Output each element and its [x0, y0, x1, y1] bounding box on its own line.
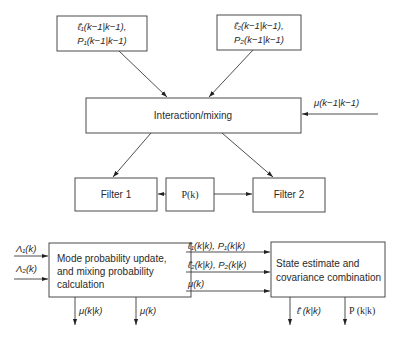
mu-k-in-label: μ(k) — [187, 278, 204, 289]
lambda2-label: Λ₂(k) — [15, 263, 37, 274]
input-box-1-line1: ℓ̂₁(k−1|k−1), — [77, 21, 127, 32]
mode-update-line3: calculation — [57, 279, 104, 290]
arrow-input2-to-interaction — [209, 50, 253, 97]
input-box-2-line2: P₂(k−1|k−1) — [234, 34, 284, 45]
pk-label: P(k) — [181, 189, 198, 201]
mu-prev-label: μ(k−1|k−1) — [313, 97, 359, 108]
interaction-box: Interaction/mixing — [86, 98, 301, 133]
state-combo-line1: State estimate and — [276, 258, 359, 269]
pk-box: P(k) — [166, 178, 214, 211]
mode-update-line1: Mode probability update, — [57, 253, 167, 264]
imm-diagram: ℓ̂₁(k−1|k−1), P₁(k−1|k−1) ℓ̂₂(k−1|k−1), … — [0, 0, 404, 343]
input-box-1-line2: P₁(k−1|k−1) — [77, 35, 126, 46]
arrow-interaction-to-filter1 — [113, 133, 151, 177]
p-out-label: P (k|k) — [349, 305, 375, 317]
input-box-1: ℓ̂₁(k−1|k−1), P₁(k−1|k−1) — [57, 16, 147, 51]
state2-label: ℓ̂₂(k|k), P₂(k|k) — [187, 259, 247, 270]
arrow-interaction-to-filter2 — [222, 133, 273, 177]
filter2-label: Filter 2 — [274, 189, 305, 200]
state1-label: ℓ̂₁(k|k), P₁(k|k) — [187, 240, 245, 251]
ell-out-label: ℓ̂ (k|k) — [296, 305, 321, 316]
arrow-input1-to-interaction — [119, 51, 167, 97]
state-combo-box: State estimate and covariance combinatio… — [271, 242, 385, 297]
input-box-2: ℓ̂₂(k−1|k−1), P₂(k−1|k−1) — [217, 15, 301, 50]
interaction-label: Interaction/mixing — [154, 110, 232, 121]
mode-update-line2: and mixing probability — [57, 266, 154, 277]
filter2-box: Filter 2 — [253, 178, 325, 212]
mu-k-label: μ(k) — [139, 305, 156, 316]
state-combo-line2: covariance combination — [276, 272, 381, 283]
mode-update-box: Mode probability update, and mixing prob… — [49, 243, 191, 297]
mu-kk-label: μ(k|k) — [78, 305, 103, 316]
filter1-label: Filter 1 — [101, 189, 132, 200]
lambda1-label: Λ₁(k) — [15, 243, 36, 254]
filter1-box: Filter 1 — [75, 178, 157, 211]
input-box-2-line1: ℓ̂₂(k−1|k−1), — [233, 20, 283, 31]
